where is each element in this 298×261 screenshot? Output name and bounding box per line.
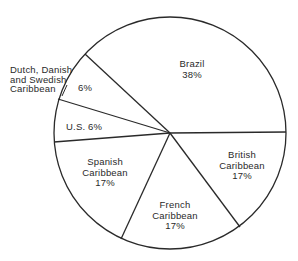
divider-spanish-us: [54, 133, 170, 142]
slice-name-percent: U.S. 6%: [66, 122, 102, 133]
pie-chart-graphic: [0, 0, 298, 261]
slice-percent-dutch: 6%: [78, 83, 92, 94]
slice-name: French: [152, 200, 198, 211]
slice-label-us: U.S. 6%: [66, 122, 102, 133]
slice-label-french: French Caribbean 17%: [152, 200, 198, 232]
pie-chart: Brazil 38% British Caribbean 17% French …: [0, 0, 298, 261]
slice-name: Brazil: [180, 59, 205, 70]
slice-label-brazil: Brazil 38%: [180, 59, 205, 80]
slice-percent: 17%: [82, 178, 128, 189]
slice-percent: 17%: [152, 221, 198, 232]
slice-name: British: [219, 150, 265, 161]
divider-brazil-british: [170, 132, 286, 133]
slice-label-spanish: Spanish Caribbean 17%: [82, 157, 128, 189]
slice-label-british: British Caribbean 17%: [219, 150, 265, 182]
slice-name: Spanish: [82, 157, 128, 168]
slice-percent: 38%: [180, 70, 205, 81]
slice-name-3: Caribbean: [10, 84, 72, 94]
slice-percent: 6%: [78, 83, 92, 94]
slice-label-dutch: Dutch, Danish and Swedish Caribbean: [10, 65, 72, 94]
slice-percent: 17%: [219, 171, 265, 182]
